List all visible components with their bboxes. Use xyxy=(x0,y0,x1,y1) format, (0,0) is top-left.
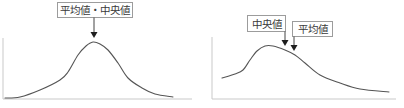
mean-median-annotation: 平均値・中央値 xyxy=(58,3,133,39)
mean-annotation: 平均値 xyxy=(291,22,333,52)
skewed-distribution-chart: 中央値 平均値 xyxy=(202,0,404,108)
arrow-down-icon xyxy=(291,45,298,51)
median-annotation: 中央値 xyxy=(248,16,289,47)
median-label: 中央値 xyxy=(252,18,283,30)
mean-label: 平均値 xyxy=(298,23,329,35)
distribution-curve xyxy=(222,45,389,92)
mean-median-label: 平均値・中央値 xyxy=(60,4,131,16)
symmetric-distribution-chart: 平均値・中央値 xyxy=(0,0,202,108)
arrow-down-icon xyxy=(91,32,98,38)
arrow-down-icon xyxy=(282,40,289,46)
symmetric-chart-svg: 平均値・中央値 xyxy=(0,0,202,108)
skewed-chart-svg: 中央値 平均値 xyxy=(202,0,404,108)
distribution-curve xyxy=(5,42,173,98)
